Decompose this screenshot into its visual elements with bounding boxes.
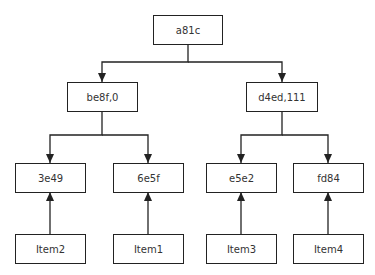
- edge-root-left: [102, 44, 188, 82]
- node-d4ed: d4ed,111: [246, 82, 318, 112]
- node-label: Item2: [36, 244, 65, 255]
- node-item1: Item1: [113, 234, 184, 264]
- node-label: 6e5f: [137, 173, 159, 184]
- node-fd84: fd84: [293, 163, 364, 193]
- arrow-head-icon: [237, 154, 245, 163]
- node-label: fd84: [317, 173, 340, 184]
- arrow-head-icon: [324, 154, 332, 163]
- node-label: d4ed,111: [258, 92, 305, 103]
- node-label: e5e2: [229, 173, 254, 184]
- arrow-head-icon: [144, 154, 152, 163]
- node-3e49: 3e49: [15, 163, 86, 193]
- node-label: Item1: [134, 244, 163, 255]
- arrow-head-icon: [46, 154, 54, 163]
- node-label: a81c: [176, 25, 200, 36]
- node-e5e2: e5e2: [206, 163, 277, 193]
- arrow-head-icon: [237, 192, 245, 201]
- node-be8f: be8f,0: [67, 82, 138, 112]
- node-label: be8f,0: [87, 92, 119, 103]
- arrow-head-icon: [278, 73, 286, 82]
- edge-left-6e5f: [102, 135, 148, 163]
- node-6e5f: 6e5f: [113, 163, 184, 193]
- arrow-head-icon: [144, 192, 152, 201]
- node-label: Item3: [227, 244, 256, 255]
- edge-left-3e49: [50, 112, 102, 163]
- edge-right-fd84: [282, 135, 328, 163]
- arrow-head-icon: [98, 73, 106, 82]
- arrow-head-icon: [46, 192, 54, 201]
- edge-root-right: [188, 62, 282, 82]
- node-label: Item4: [314, 244, 343, 255]
- edge-right-e5e2: [241, 111, 282, 163]
- node-item3: Item3: [206, 234, 277, 264]
- node-label: 3e49: [38, 173, 63, 184]
- node-item2: Item2: [15, 234, 86, 264]
- arrow-head-icon: [324, 192, 332, 201]
- node-root: a81c: [153, 15, 223, 45]
- node-item4: Item4: [293, 234, 364, 264]
